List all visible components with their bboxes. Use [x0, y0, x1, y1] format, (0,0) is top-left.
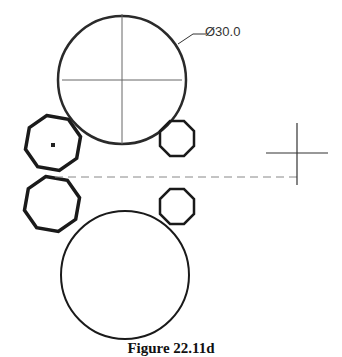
octagon-right-upper[interactable] [160, 121, 194, 156]
octagon-right-lower[interactable] [160, 189, 194, 224]
octagon-left-lower[interactable] [22, 174, 82, 234]
drawing-canvas [0, 0, 342, 357]
figure-caption: Figure 22.11d [0, 340, 342, 357]
selection-marker [51, 143, 55, 147]
large-circle-bottom[interactable] [61, 211, 189, 339]
diameter-dimension-label: Ø30.0 [205, 24, 240, 39]
dimension-leader [178, 34, 206, 44]
